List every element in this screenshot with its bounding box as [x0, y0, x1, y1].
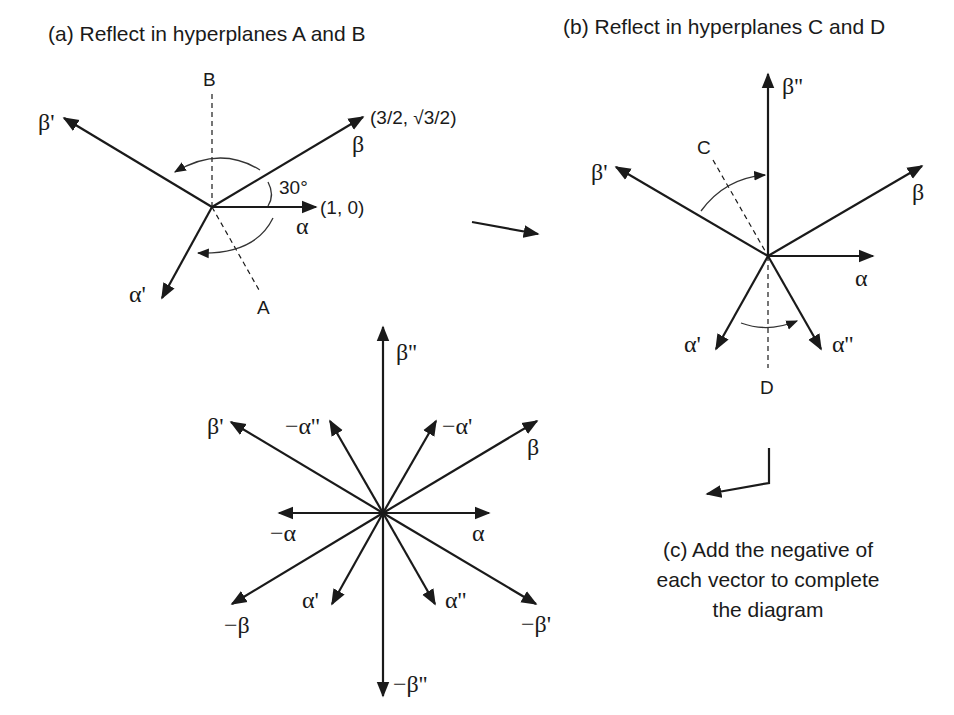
hyperplane-c-line	[713, 160, 768, 256]
panel-c: β'' −β'' α −α β −β β' −β' −α' α' −α'' α'…	[207, 327, 879, 697]
vector-alpha-dprime	[383, 513, 435, 604]
alpha-dprime-label: α''	[445, 587, 466, 613]
transition-arrow-a-to-b	[472, 222, 538, 234]
neg-beta-prime-label: −β'	[521, 611, 551, 637]
hyperplane-c-label: C	[697, 137, 711, 158]
vector-alpha-dprime	[768, 256, 821, 349]
angle-arc-icon	[268, 182, 272, 206]
reflection-arc-beta-icon	[175, 158, 260, 172]
vector-alpha-prime	[716, 256, 768, 349]
vector-neg-alpha-dprime	[330, 421, 383, 513]
alpha-label: α	[855, 265, 868, 291]
panel-c-caption-line-1: (c) Add the negative of	[663, 538, 873, 561]
alpha-prime-label: α'	[129, 281, 146, 307]
hyperplane-b-label: B	[203, 69, 216, 90]
beta-prime-label: β'	[38, 109, 55, 135]
neg-beta-label: −β	[224, 612, 250, 638]
panel-b: (b) Reflect in hyperplanes C and D C D β…	[563, 15, 924, 398]
panel-b-title: (b) Reflect in hyperplanes C and D	[563, 15, 885, 38]
transition-arrow-b-to-c	[707, 448, 769, 494]
hyperplane-d-label: D	[760, 377, 774, 398]
beta-label: β	[527, 434, 539, 460]
root-system-diagram: (a) Reflect in hyperplanes A and B B A 3…	[0, 0, 954, 715]
beta-prime-label: β'	[207, 413, 224, 439]
beta-prime-label: β'	[591, 159, 608, 185]
vector-beta-prime	[64, 118, 212, 207]
neg-alpha-label: −α	[270, 520, 297, 546]
vector-alpha-prime	[332, 513, 383, 604]
beta-coords: (3/2, √3/2)	[370, 107, 456, 128]
panel-a-title: (a) Reflect in hyperplanes A and B	[48, 22, 366, 45]
alpha-prime-label: α'	[684, 331, 701, 357]
panel-a: (a) Reflect in hyperplanes A and B B A 3…	[38, 22, 456, 318]
hyperplane-a-label: A	[257, 297, 270, 318]
panel-c-caption-line-2: each vector to complete	[657, 568, 880, 591]
reflection-arc-c-icon	[701, 175, 765, 211]
alpha-coords: (1, 0)	[320, 197, 364, 218]
beta-dprime-label: β''	[782, 73, 803, 99]
alpha-label: α	[296, 213, 309, 239]
neg-alpha-prime-label: −α'	[442, 413, 472, 439]
vector-neg-alpha-prime	[383, 421, 436, 513]
panel-c-caption-line-3: the diagram	[713, 598, 824, 621]
alpha-prime-label: α'	[302, 587, 319, 613]
beta-label: β	[912, 179, 924, 205]
neg-beta-dprime-label: −β''	[393, 671, 427, 697]
neg-alpha-dprime-label: −α''	[285, 413, 320, 439]
beta-label: β	[352, 131, 364, 157]
reflection-arc-d-icon	[741, 321, 797, 328]
vector-beta-prime	[616, 167, 768, 256]
angle-label: 30°	[279, 177, 308, 198]
alpha-label: α	[472, 520, 485, 546]
beta-dprime-label: β''	[396, 339, 417, 365]
alpha-dprime-label: α''	[832, 331, 853, 357]
vector-beta	[768, 166, 922, 256]
